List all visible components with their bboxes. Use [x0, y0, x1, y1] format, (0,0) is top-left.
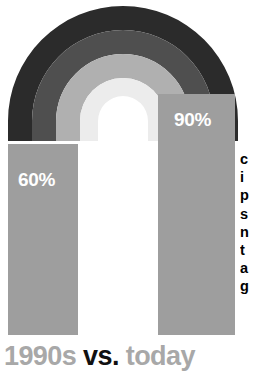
side-text-line: s — [240, 205, 253, 223]
side-text-line: p — [240, 186, 253, 204]
side-text-line: n — [240, 223, 253, 241]
caption-label-1990s: 1990s — [4, 343, 76, 370]
bar-value-1990s: 60% — [18, 170, 55, 189]
bar-value-today: 90% — [174, 110, 211, 129]
side-text-line: a — [240, 259, 253, 277]
bar-1990s: 60% — [8, 144, 78, 335]
side-text-line: t — [240, 241, 253, 259]
infographic-canvas: 60% 90% 1990s vs. today c i p s n t a g — [0, 0, 253, 377]
caption-label-today: today — [126, 343, 195, 370]
caption-label-vs: vs. — [83, 343, 119, 370]
side-text-line: g — [240, 277, 253, 295]
bar-today: 90% — [158, 94, 235, 335]
side-text-line: i — [240, 168, 253, 186]
side-text-line: c — [240, 150, 253, 168]
side-body-text: c i p s n t a g — [240, 150, 253, 296]
chart-caption: 1990s vs. today — [4, 338, 249, 374]
